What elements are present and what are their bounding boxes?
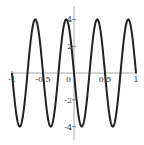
x-tick-label: 1 — [133, 75, 138, 84]
sine-wave-plot: -1-0.500.51-4-224 — [0, 0, 144, 145]
plot-canvas: -1-0.500.51-4-224 — [0, 0, 144, 145]
x-tick-label: 0 — [66, 75, 71, 84]
y-tick-label: 4 — [67, 15, 72, 24]
y-tick-label: -2 — [64, 96, 72, 105]
x-tick-label: -1 — [8, 75, 16, 84]
y-tick-label: 2 — [67, 42, 72, 51]
x-tick-label: -0.5 — [35, 75, 50, 84]
x-tick-label: 0.5 — [99, 75, 112, 84]
y-tick-label: -4 — [64, 123, 72, 132]
